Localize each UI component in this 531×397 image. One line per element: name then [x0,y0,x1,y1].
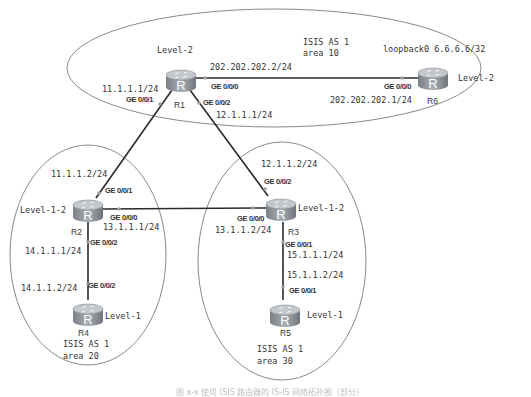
r6-loopback-label: loopback0 6.6.6.6/32 [383,44,485,54]
area-30-label-line1: ISIS AS 1 [257,344,303,354]
area-20-label-line1: ISIS AS 1 [63,339,109,349]
r4-name-label: R4 [78,328,89,338]
r1-ge000-ip: 202.202.202.2/24 [210,62,292,72]
r6-name-label: R6 [427,96,438,106]
r3-name-label: R3 [288,227,299,237]
r2-ge000-port: GE 0/0/0 [110,213,137,222]
r6-level-label: Level-2 [458,73,494,83]
r6-ge000-ip: 202.202.202.1/24 [330,95,412,105]
link-r2-r3 [103,208,266,209]
router-icon-r5[interactable] [270,305,300,328]
area-20-label-line2: area 20 [63,351,99,361]
interface-dots [86,76,404,289]
r4-ge002-ip: 14.1.1.2/24 [21,283,77,293]
r3-ge002-ip: 12.1.1.2/24 [261,159,317,169]
r3-ge000-port: GE 0/0/0 [237,214,264,223]
r2-ge001-ip: 11.1.1.2/24 [51,169,107,179]
r1-ge000-port: GE 0/0/0 [211,82,238,91]
router-icon-r1[interactable] [166,70,196,93]
r3-ge001-port: GE 0/0/1 [285,240,312,249]
r3-ge000-ip: 13.1.1.2/24 [215,225,271,235]
router-icon-r3[interactable] [266,199,296,222]
r2-level-label: Level-1-2 [20,205,66,215]
router-icon-r6[interactable] [418,68,448,91]
r5-level-label: Level-1 [307,310,343,320]
r4-level-label: Level-1 [105,311,141,321]
r1-ge002-ip: 12.1.1.1/24 [216,110,272,120]
r3-ge001-ip: 15.1.1.1/24 [287,250,343,260]
r2-ge002-port: GE 0/0/2 [90,238,117,247]
r2-name-label: R2 [71,227,82,237]
router-icon-r2[interactable] [73,200,103,223]
link-r1-r2 [96,90,172,198]
r2-ge001-port: GE 0/0/1 [105,186,132,195]
r6-ge000-port: GE 0/0/0 [384,82,411,91]
router-icon-r4[interactable] [73,304,103,327]
r2-ge000-ip: 13.1.1.1/24 [103,222,159,232]
r1-ge001-ip: 11.1.1.1/24 [102,84,158,94]
r3-level-label: Level-1-2 [298,203,344,213]
r1-name-label: R1 [174,100,185,110]
r5-ge001-ip: 15.1.1.2/24 [287,270,343,280]
r2-ge002-ip: 14.1.1.1/24 [25,246,81,256]
r4-ge002-port: GE 0/0/2 [88,281,115,290]
r3-ge002-port: GE 0/0/2 [264,177,291,186]
area-10-label-line1: ISIS AS 1 [303,37,349,47]
area-30-label-line2: area 30 [257,356,293,366]
figure-caption: 图 x-x 使用 ISIS 路由器的 IS-IS 网络拓扑图（部分） [120,386,420,397]
r5-name-label: R5 [280,328,291,338]
r1-ge001-port: GE 0/0/1 [126,95,153,104]
r5-ge001-port: GE 0/0/1 [289,286,316,295]
r1-ge002-port: GE 0/0/2 [203,98,230,107]
r1-level-label: Level-2 [157,45,193,55]
area-10-label-line2: area 10 [303,48,339,58]
